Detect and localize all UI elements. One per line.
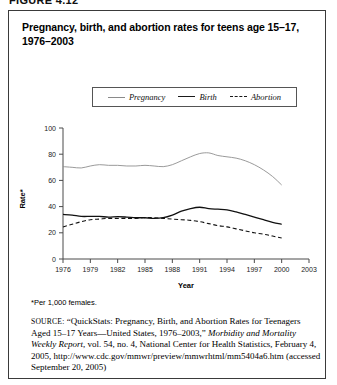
y-axis-ticks: 020406080100 (44, 125, 63, 263)
chart-footnote: *Per 1,000 females. (31, 298, 97, 307)
x-tick-label: 1976 (55, 266, 71, 273)
y-tick-label: 20 (48, 229, 56, 236)
legend-item-pregnancy: Pregnancy (108, 92, 166, 102)
x-tick-label: 1997 (247, 266, 263, 273)
x-tick-label: 1991 (192, 266, 208, 273)
y-tick-label: 40 (48, 203, 56, 210)
x-tick-label: 1994 (219, 266, 235, 273)
y-tick-label: 0 (52, 256, 56, 263)
source-note: SOURCE: “QuickStats: Pregnancy, Birth, a… (31, 316, 321, 374)
legend-line-birth-icon (178, 94, 195, 100)
x-tick-label: 2000 (274, 266, 290, 273)
x-axis-ticks: 1976197919821985198819911994199720002003 (55, 259, 317, 273)
chart-series (63, 153, 282, 238)
y-tick-label: 100 (44, 125, 56, 132)
series-line-pregnancy (63, 153, 282, 185)
y-tick-label: 80 (48, 151, 56, 158)
figure-box: Pregnancy, birth, and abortion rates for… (8, 10, 326, 379)
legend-item-abortion: Abortion (230, 92, 281, 102)
x-tick-label: 1982 (110, 266, 126, 273)
figure-label: FIGURE 4.12 (9, 0, 78, 6)
x-tick-label: 2003 (301, 266, 317, 273)
y-axis-label: Rate* (18, 189, 27, 208)
source-prefix: SOURCE: (31, 317, 64, 326)
chart-legend: Pregnancy Birth Abortion (92, 87, 297, 107)
x-tick-label: 1988 (165, 266, 181, 273)
line-chart: 020406080100 197619791982198519881991199… (9, 115, 327, 295)
y-tick-label: 60 (48, 177, 56, 184)
page-title: Pregnancy, birth, and abortion rates for… (22, 21, 308, 48)
legend-label-abortion: Abortion (251, 92, 281, 102)
x-tick-label: 1979 (83, 266, 99, 273)
series-line-birth (63, 207, 282, 224)
legend-label-pregnancy: Pregnancy (129, 92, 166, 102)
legend-item-birth: Birth (178, 92, 216, 102)
chart-plot-area: 020406080100 197619791982198519881991199… (9, 115, 337, 295)
legend-line-abortion-icon (230, 94, 247, 100)
legend-line-pregnancy-icon (108, 94, 125, 100)
x-tick-label: 1985 (137, 266, 153, 273)
x-axis-label: Year (178, 281, 194, 290)
series-line-abortion (63, 218, 282, 238)
legend-label-birth: Birth (199, 92, 216, 102)
